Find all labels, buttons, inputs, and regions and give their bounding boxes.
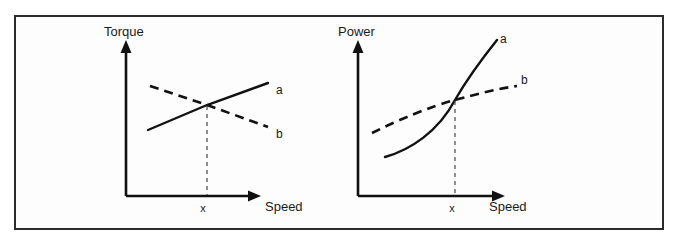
torque-series-a-label: a: [276, 83, 283, 97]
power-x-axis-label: Speed: [489, 199, 527, 214]
torque-y-axis-arrow-icon: [121, 40, 132, 53]
torque-x-axis-label: Speed: [265, 199, 303, 214]
power-x-tick-label: x: [449, 202, 455, 214]
torque-series-b-label: b: [276, 127, 283, 141]
power-y-axis-label: Power: [338, 24, 376, 39]
power-series-a-curve: [385, 40, 497, 157]
figure-root: Torque Speed x a b Power Speed x a: [0, 0, 675, 245]
torque-chart: Torque Speed x a b: [104, 24, 303, 214]
torque-x-tick-label: x: [200, 202, 206, 214]
torque-x-axis-arrow-icon: [248, 191, 261, 202]
power-chart: Power Speed x a b: [338, 24, 528, 214]
power-series-b-curve: [372, 86, 517, 133]
power-series-a-label: a: [500, 32, 507, 46]
power-series-b-label: b: [521, 73, 528, 87]
torque-y-axis-label: Torque: [104, 24, 144, 39]
power-y-axis-arrow-icon: [353, 40, 364, 53]
charts-canvas: Torque Speed x a b Power Speed x a: [0, 0, 675, 245]
